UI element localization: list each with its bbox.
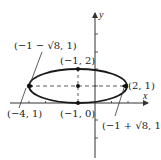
label-left-vertex: (−4, 1): [7, 108, 42, 119]
point-right-focus: [122, 84, 125, 87]
label-left-focus: (−1 − √8, 1): [14, 40, 77, 51]
y-axis-label: y: [98, 9, 104, 20]
point-bottom: [76, 101, 80, 105]
point-left-focus: [29, 84, 32, 87]
label-top: (−1, 2): [60, 55, 95, 66]
point-top: [76, 67, 80, 71]
label-bottom: (−1, 0): [60, 108, 95, 119]
x-axis-label: x: [142, 90, 148, 101]
ellipse-diagram: y x (−1 − √8, 1) (−1, 2) (2, 1) (−4, 1) …: [0, 0, 161, 160]
leader-left-focus: [30, 52, 42, 84]
leader-right-focus: [115, 88, 124, 116]
point-center: [76, 84, 80, 88]
label-right-vertex: (2, 1): [128, 80, 155, 91]
label-right-focus: (−1 + √8, 1): [102, 120, 161, 131]
points: [27, 67, 128, 105]
leader-left-vertex: [19, 88, 26, 108]
